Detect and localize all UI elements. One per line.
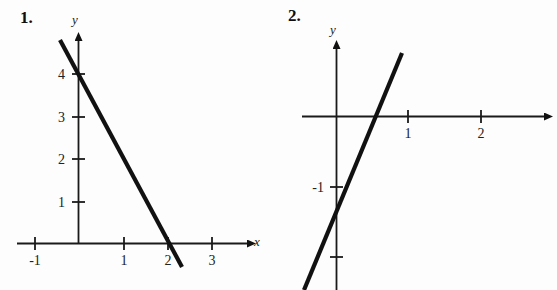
figure-1-plot: -1 1 2 3 1 2 3 4 x y bbox=[0, 0, 280, 290]
y-axis-label-2: y bbox=[328, 22, 336, 37]
x-tick-label-2: 2 bbox=[478, 126, 485, 141]
y-tick-label-3: 3 bbox=[58, 110, 65, 125]
y-tick-label-neg1: -1 bbox=[312, 180, 324, 195]
data-line-2 bbox=[304, 53, 402, 290]
worksheet-page: 1. -1 1 2 bbox=[0, 0, 557, 290]
figure-2: 2. 1 2 -1 y bbox=[280, 0, 557, 290]
y-tick-label-2: 2 bbox=[58, 152, 65, 167]
x-tick-label-2: 2 bbox=[165, 253, 172, 268]
y-tick-label-1: 1 bbox=[58, 195, 65, 210]
x-tick-label-neg1: -1 bbox=[29, 253, 41, 268]
y-axis-label-1: y bbox=[70, 12, 78, 27]
x-axis-label-1: x bbox=[253, 234, 260, 249]
x-tick-label-1: 1 bbox=[121, 253, 128, 268]
figure-2-plot: 1 2 -1 y bbox=[280, 0, 557, 290]
y-tick-label-4: 4 bbox=[58, 67, 65, 82]
x-tick-label-1: 1 bbox=[405, 126, 412, 141]
x-tick-label-3: 3 bbox=[209, 253, 216, 268]
figure-1: 1. -1 1 2 bbox=[0, 0, 280, 290]
